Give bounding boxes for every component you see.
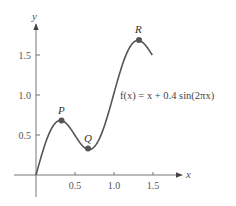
y-tick-label: 1.5	[19, 50, 32, 61]
y-tick-label: 1.0	[19, 90, 32, 101]
y-axis-label: y	[31, 10, 37, 22]
point-r-label: R	[134, 23, 142, 35]
x-tick-label: 1.5	[147, 180, 160, 191]
y-tick-label: 0.5	[19, 130, 32, 141]
function-formula-label: f(x) = x + 0.4 sin(2πx)	[120, 90, 215, 102]
point-q-marker	[85, 146, 91, 152]
x-axis-label: x	[185, 168, 191, 180]
function-plot: x y 0.5 1.0 1.5 0.5 1.0 1.5 P Q R f(x) =…	[0, 0, 236, 206]
point-r-marker	[136, 37, 142, 43]
y-ticks	[36, 55, 40, 135]
function-curve	[36, 40, 152, 175]
x-tick-label: 1.0	[108, 180, 121, 191]
point-p-label: P	[57, 104, 65, 116]
point-p-marker	[59, 118, 65, 124]
point-q-label: Q	[84, 132, 92, 144]
x-tick-label: 0.5	[69, 180, 82, 191]
